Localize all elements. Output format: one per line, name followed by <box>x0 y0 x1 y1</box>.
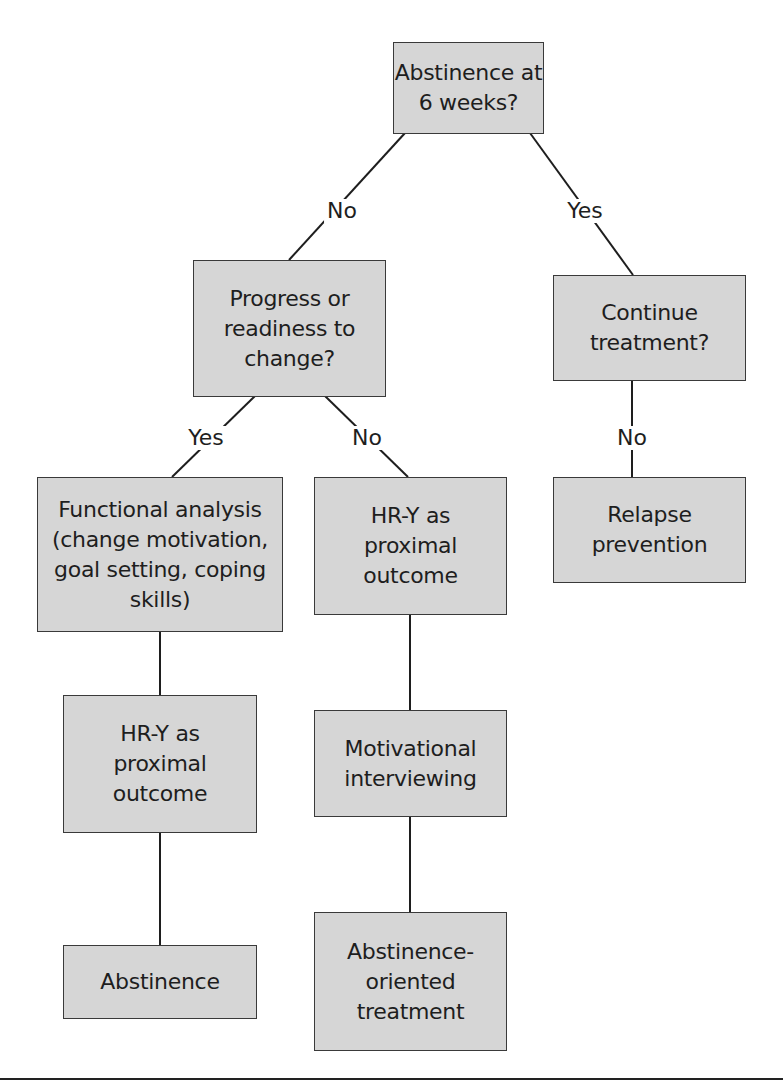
edge-label-continue-no: No <box>614 426 650 450</box>
node-text: Motivational interviewing <box>344 734 476 794</box>
edge-label-root-yes: Yes <box>564 199 606 223</box>
edge-label-progress-yes: Yes <box>185 426 227 450</box>
node-text: Functional analysis (change motivation, … <box>52 495 268 615</box>
node-abstinence: Abstinence <box>63 945 257 1019</box>
node-hry-proximal-outcome-left: HR-Y as proximal outcome <box>63 695 257 833</box>
bottom-rule <box>0 1078 783 1080</box>
node-text: Abstinence <box>100 967 219 997</box>
node-functional-analysis: Functional analysis (change motivation, … <box>37 477 283 632</box>
node-text: Abstinence- oriented treatment <box>347 937 474 1027</box>
node-text: Progress or readiness to change? <box>224 284 356 374</box>
node-text: Abstinence at 6 weeks? <box>395 58 542 118</box>
node-relapse-prevention: Relapse prevention <box>553 477 746 583</box>
edge-label-progress-no: No <box>349 426 385 450</box>
node-continue-treatment: Continue treatment? <box>553 275 746 381</box>
node-text: Relapse prevention <box>592 500 708 560</box>
node-text: HR-Y as proximal outcome <box>363 501 457 591</box>
node-abstinence-oriented-treatment: Abstinence- oriented treatment <box>314 912 507 1051</box>
edge-label-root-no: No <box>324 199 360 223</box>
node-text: HR-Y as proximal outcome <box>113 719 207 809</box>
node-motivational-interviewing: Motivational interviewing <box>314 710 507 817</box>
node-hry-proximal-outcome-mid: HR-Y as proximal outcome <box>314 477 507 615</box>
node-abstinence-at-6-weeks: Abstinence at 6 weeks? <box>393 42 544 134</box>
node-text: Continue treatment? <box>590 298 709 358</box>
node-progress-or-readiness: Progress or readiness to change? <box>193 260 386 397</box>
